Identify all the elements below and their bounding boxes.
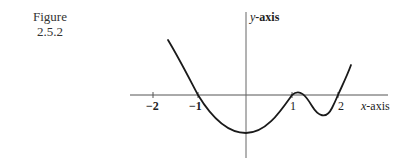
tick-label-neg1: −1	[189, 99, 202, 113]
y-axis-suffix: -axis	[255, 10, 279, 24]
tick-label-neg2: −2	[146, 99, 159, 113]
y-axis-label: y-axis	[249, 10, 280, 24]
x-axis-suffix: -axis	[366, 99, 390, 113]
x-axis-label: x-axis	[360, 99, 390, 113]
tick-label-1: 1	[290, 99, 296, 113]
tick-label-2: 2	[338, 99, 344, 113]
function-curve	[168, 40, 351, 133]
function-graph: −2 −1 1 2 y-axis x-axis	[0, 0, 418, 164]
